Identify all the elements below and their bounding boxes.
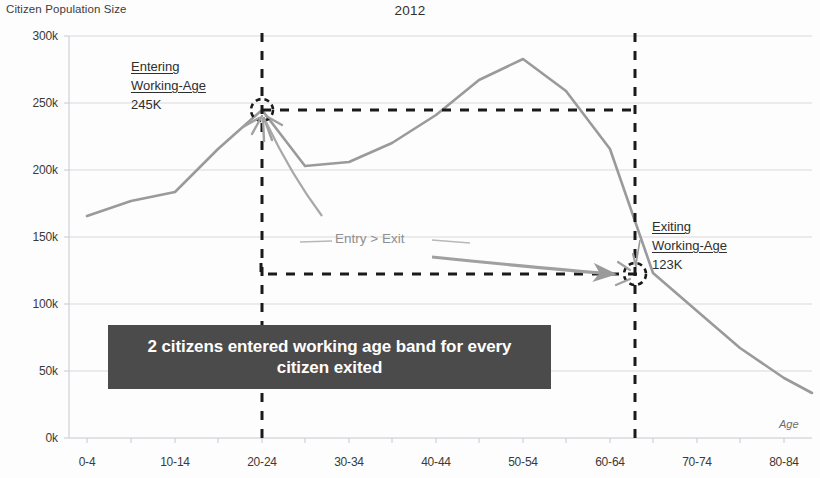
x-tick-60-64: 60-64 [575, 455, 645, 469]
annotation-exiting-line1: Exiting [652, 218, 727, 237]
callout-text: 2 citizens entered working age band for … [122, 336, 537, 379]
y-tick-250k: 250k [12, 96, 58, 110]
annotation-entering-line2: Working-Age [131, 77, 206, 96]
x-tick-70-74: 70-74 [662, 455, 732, 469]
entry-exit-arrow [432, 257, 614, 274]
y-tick-150k: 150k [12, 230, 58, 244]
annotation-entering-value: 245K [131, 96, 206, 115]
x-tick-80-84: 80-84 [749, 455, 819, 469]
x-tick-30-34: 30-34 [314, 455, 384, 469]
x-tick-0-4: 0-4 [52, 455, 122, 469]
y-tick-50k: 50k [12, 364, 58, 378]
y-axis-ticks [64, 36, 69, 438]
y-tick-100k: 100k [12, 297, 58, 311]
exiting-label-connector [636, 240, 640, 264]
x-tick-20-24: 20-24 [227, 455, 297, 469]
entry-exit-label: Entry > Exit [335, 231, 404, 246]
x-axis-title: Age [779, 418, 799, 430]
annotation-entering-working-age: Entering Working-Age 245K [131, 58, 206, 115]
x-tick-40-44: 40-44 [401, 455, 471, 469]
y-tick-0k: 0k [12, 431, 58, 445]
annotation-exiting-line2: Working-Age [652, 237, 727, 256]
y-tick-200k: 200k [12, 163, 58, 177]
callout-box: 2 citizens entered working age band for … [108, 325, 551, 389]
x-tick-50-54: 50-54 [488, 455, 558, 469]
entering-descend-arrow [266, 122, 322, 216]
annotation-exiting-value: 123K [652, 256, 727, 275]
annotation-exiting-working-age: Exiting Working-Age 123K [652, 218, 727, 275]
y-tick-300k: 300k [12, 29, 58, 43]
x-axis-ticks [87, 438, 784, 443]
chart-page: Citizen Population Size 2012 [0, 0, 820, 478]
annotation-entering-line1: Entering [131, 58, 206, 77]
x-tick-10-14: 10-14 [140, 455, 210, 469]
